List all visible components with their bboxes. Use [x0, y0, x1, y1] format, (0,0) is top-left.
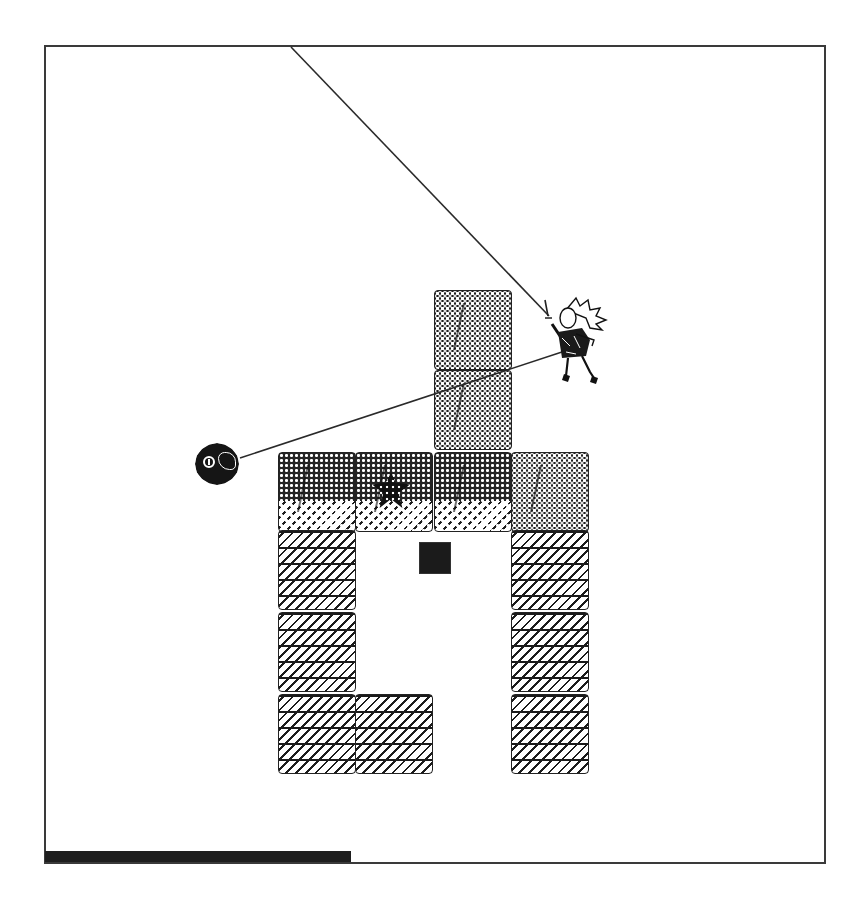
tile-left-col-2: [278, 612, 356, 692]
crack-mark: [453, 383, 495, 430]
tile-left-col-1: [278, 530, 356, 610]
crack-mark: [297, 465, 339, 512]
crack-mark: [530, 465, 572, 512]
tile-tower-mid: [434, 370, 512, 450]
dark-block: [419, 542, 451, 574]
player-warrior-sprite: [546, 296, 608, 384]
tile-right-col-2: [511, 612, 589, 692]
health-bar: [45, 851, 351, 862]
tile-tower-top: [434, 290, 512, 370]
tile-row-c: [434, 452, 512, 532]
tile-right-col-3: [511, 694, 589, 774]
tile-row-a: [278, 452, 356, 532]
tile-left-col-3: [278, 694, 356, 774]
crack-mark: [453, 465, 495, 512]
tile-right-col-1: [511, 530, 589, 610]
orb-eye-icon: [203, 456, 215, 468]
tile-bottom-mid: [355, 694, 433, 774]
crack-mark: [453, 303, 495, 350]
tile-row-d: [511, 452, 589, 532]
